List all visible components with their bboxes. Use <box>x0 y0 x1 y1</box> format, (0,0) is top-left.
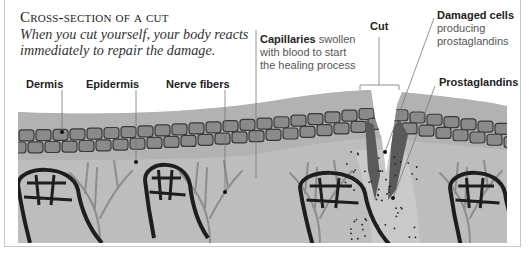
epidermal-cell <box>113 139 128 150</box>
epidermal-cell <box>266 129 281 140</box>
prostaglandin-dot <box>384 224 386 226</box>
prostaglandin-dot <box>378 189 380 191</box>
epidermal-cell <box>172 124 187 135</box>
prostaglandin-dot <box>354 221 356 223</box>
prostaglandin-dot <box>354 169 356 171</box>
prostaglandin-dot <box>377 194 379 196</box>
prostaglandin-dot <box>415 236 417 238</box>
epidermal-cell <box>215 133 230 144</box>
epidermal-cell <box>181 135 196 146</box>
prostaglandin-dot <box>364 170 366 172</box>
prostaglandin-dot <box>388 191 390 193</box>
prostaglandin-dot <box>395 163 397 165</box>
prostaglandin-dot <box>395 174 397 176</box>
prostaglandin-dot <box>395 207 397 209</box>
prostaglandin-dot <box>376 199 378 201</box>
prostaglandin-dot <box>393 156 395 158</box>
damaged-cell-marker <box>383 150 387 154</box>
prostaglandin-dot <box>350 228 352 230</box>
prostaglandin-dot <box>385 179 387 181</box>
epidermal-cell <box>300 126 315 137</box>
prostaglandin-dot <box>371 181 373 183</box>
epidermal-cell <box>504 137 519 148</box>
prostaglandin-marker <box>391 196 395 200</box>
epidermal-cell <box>130 138 145 149</box>
epidermal-cell <box>198 134 213 145</box>
prostaglandin-dot <box>353 171 355 173</box>
epidermal-cell <box>376 107 391 118</box>
prostaglandin-dot <box>357 153 359 155</box>
prostaglandin-dot <box>411 173 413 175</box>
epidermal-cell <box>104 127 119 138</box>
prostaglandin-dot <box>381 200 383 202</box>
epidermal-cell <box>96 140 111 151</box>
epidermal-cell <box>470 132 485 143</box>
prostaglandin-dot <box>357 238 359 240</box>
label-dermis: Dermis <box>26 78 63 91</box>
label-cut: Cut <box>370 20 388 33</box>
epidermal-cell <box>393 110 408 121</box>
label-epidermis: Epidermis <box>86 78 139 91</box>
prostaglandin-dot <box>386 193 388 195</box>
epidermal-cell <box>461 119 476 130</box>
prostaglandin-dot <box>378 157 380 159</box>
prostaglandin-dot <box>350 233 352 235</box>
epidermal-cell <box>427 114 442 125</box>
epidermal-cell <box>36 130 51 141</box>
epidermal-cell <box>410 112 425 123</box>
epidermal-cell <box>274 117 289 128</box>
prostaglandin-dot <box>414 227 416 229</box>
epidermal-cell <box>325 112 340 123</box>
epidermal-cell <box>436 127 451 138</box>
prostaglandin-dot <box>388 189 390 191</box>
prostaglandin-dot <box>382 170 384 172</box>
epidermal-cell <box>351 121 366 132</box>
prostaglandin-dot <box>362 229 364 231</box>
epidermal-cell <box>155 125 170 136</box>
epidermal-cell <box>257 118 272 129</box>
prostaglandin-dot <box>368 181 370 183</box>
prostaglandin-dot <box>353 189 355 191</box>
epidermal-cell <box>19 130 34 141</box>
prostaglandin-dot <box>389 185 391 187</box>
prostaglandin-dot <box>409 236 411 238</box>
epidermal-cell <box>334 123 349 134</box>
epidermal-cell <box>291 115 306 126</box>
epidermal-cell <box>28 142 43 153</box>
epidermal-cell <box>138 126 153 137</box>
epidermal-cell <box>419 125 434 136</box>
epidermal-cell <box>232 132 247 143</box>
epidermal-cell <box>189 123 204 134</box>
epidermal-cell <box>121 127 136 138</box>
dermis-marker <box>60 130 64 134</box>
epidermal-cell <box>478 121 493 132</box>
prostaglandin-dot <box>397 212 399 214</box>
prostaglandin-dot <box>379 170 381 172</box>
epidermal-cell <box>45 141 60 152</box>
skin-body <box>11 85 527 246</box>
epidermal-cell <box>317 125 332 136</box>
epidermal-cell <box>453 130 468 141</box>
prostaglandin-dot <box>400 161 402 163</box>
prostaglandin-dot <box>394 227 396 229</box>
prostaglandin-dot <box>346 163 348 165</box>
epidermal-cell <box>70 129 85 140</box>
epidermal-cell <box>249 131 264 142</box>
prostaglandin-dot <box>378 170 380 172</box>
epidermal-cell <box>11 142 26 153</box>
epidermal-cell <box>62 141 77 152</box>
epidermal-cell <box>444 117 459 128</box>
label-prostaglandins: Prostaglandins <box>439 76 518 89</box>
prostaglandin-dot <box>356 219 358 221</box>
epidermal-cell <box>487 134 502 145</box>
epidermal-cell <box>87 128 102 139</box>
prostaglandin-dot <box>345 182 347 184</box>
epidermal-cell <box>240 119 255 130</box>
epidermal-cell <box>495 123 510 134</box>
epidermal-cell <box>206 122 221 133</box>
prostaglandin-dot <box>416 178 418 180</box>
prostaglandin-dot <box>400 207 402 209</box>
epidermal-cell <box>342 110 357 121</box>
epidermal-cell <box>308 114 323 125</box>
epidermal-cell <box>147 137 162 148</box>
